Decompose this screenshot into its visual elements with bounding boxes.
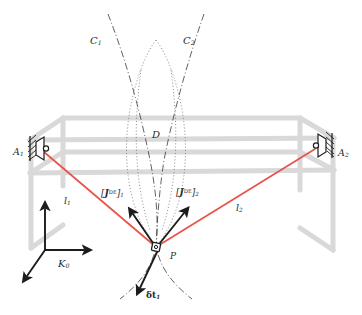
label-vector-j-de-2: [JDE]2 <box>176 188 199 198</box>
axis-y-down-left <box>27 250 45 276</box>
label-ray-l2: l2 <box>236 203 243 214</box>
label-curve-c2: C2 <box>183 36 195 47</box>
vector-delta-t1-arrow <box>140 252 157 288</box>
region-d-left-arc <box>127 40 156 247</box>
label-transducer-a2: A2 <box>338 148 349 159</box>
label-region-d: D <box>152 130 160 140</box>
curve-c1 <box>108 14 157 299</box>
label-vector-j-de-1: [JDE]1 <box>101 189 124 199</box>
label-delta-t1: δt1 <box>146 291 160 301</box>
figure-canvas: C1 C2 D A1 A2 l1 l2 P K0 [JDE]1 [JDE]2 δ… <box>0 0 362 315</box>
label-frame-k0: K0 <box>58 259 69 270</box>
transducer-a2-aperture <box>313 143 318 148</box>
vector-j-de-1-arrow <box>133 214 153 243</box>
point-p-marker <box>151 242 160 251</box>
curve-c2 <box>156 14 204 299</box>
label-ray-l1: l1 <box>64 196 71 207</box>
frame-foot-left <box>31 225 63 248</box>
diagram-svg <box>0 0 362 315</box>
frame-mid-front-rail <box>30 170 334 173</box>
label-transducer-a1: A1 <box>13 147 24 158</box>
transducer-a1-aperture <box>43 146 48 151</box>
frame-foot-right <box>300 228 333 250</box>
frame-top-left-connector <box>30 118 63 140</box>
label-curve-c1: C1 <box>90 36 102 47</box>
frame-top-front-rail <box>30 138 334 140</box>
vector-j-de-2-arrow <box>160 213 184 243</box>
label-point-p: P <box>170 252 176 261</box>
ray-l1 <box>44 152 156 247</box>
